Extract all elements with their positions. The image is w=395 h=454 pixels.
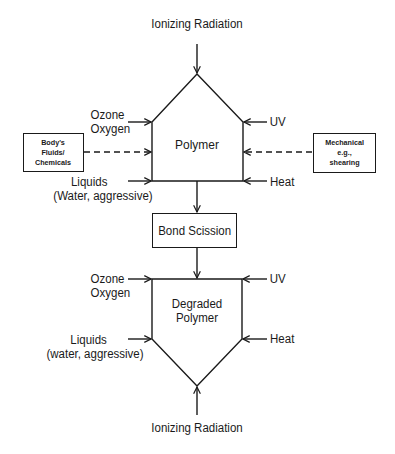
liquids-text: Liquids [44, 333, 145, 347]
mechanical-box: Mechanical e.g., shearing [313, 133, 376, 173]
body-line: Body's [35, 138, 71, 148]
liquids-label-bottom: Liquids (water, aggressive) [44, 333, 145, 361]
heat-label-top: Heat [270, 175, 294, 189]
polymer-label: Polymer [160, 138, 234, 152]
fluids-line: Fluids/ [35, 148, 71, 158]
heat-label-bottom: Heat [270, 332, 294, 346]
ozone-oxygen-label-bottom: Ozone Oxygen [91, 272, 128, 300]
polymer-shape [152, 74, 243, 181]
bond-scission-box: Bond Scission [152, 213, 237, 248]
ozone-oxygen-label-top: Ozone Oxygen [91, 108, 128, 136]
water-aggressive-text: (Water, aggressive) [52, 189, 153, 203]
bottom-radiation-label: Ionizing Radiation [151, 421, 243, 435]
shearing-line: shearing [325, 158, 364, 168]
body-fluids-box: Body's Fluids/ Chemicals [23, 133, 84, 172]
top-radiation-label: Ionizing Radiation [151, 17, 243, 31]
liquids-text: Liquids [52, 175, 153, 189]
bond-scission-label: Bond Scission [158, 224, 231, 238]
polymer-text: Polymer [160, 311, 234, 325]
mechanical-line: Mechanical [325, 138, 364, 148]
degraded-polymer-shape [152, 279, 242, 386]
degraded-text: Degraded [160, 297, 234, 311]
ozone-text: Ozone [91, 108, 128, 122]
degraded-polymer-label: Degraded Polymer [160, 297, 234, 325]
body-fluids-text: Body's Fluids/ Chemicals [35, 138, 71, 168]
water-aggressive-text: (water, aggressive) [44, 347, 145, 361]
oxygen-text: Oxygen [91, 122, 128, 136]
chemicals-line: Chemicals [35, 158, 71, 168]
uv-label-bottom: UV [270, 272, 286, 286]
eg-line: e.g., [325, 148, 364, 158]
oxygen-text: Oxygen [91, 286, 128, 300]
mechanical-text: Mechanical e.g., shearing [325, 138, 364, 168]
liquids-label-top: Liquids (Water, aggressive) [52, 175, 153, 203]
uv-label-top: UV [270, 115, 286, 129]
ozone-text: Ozone [91, 272, 128, 286]
